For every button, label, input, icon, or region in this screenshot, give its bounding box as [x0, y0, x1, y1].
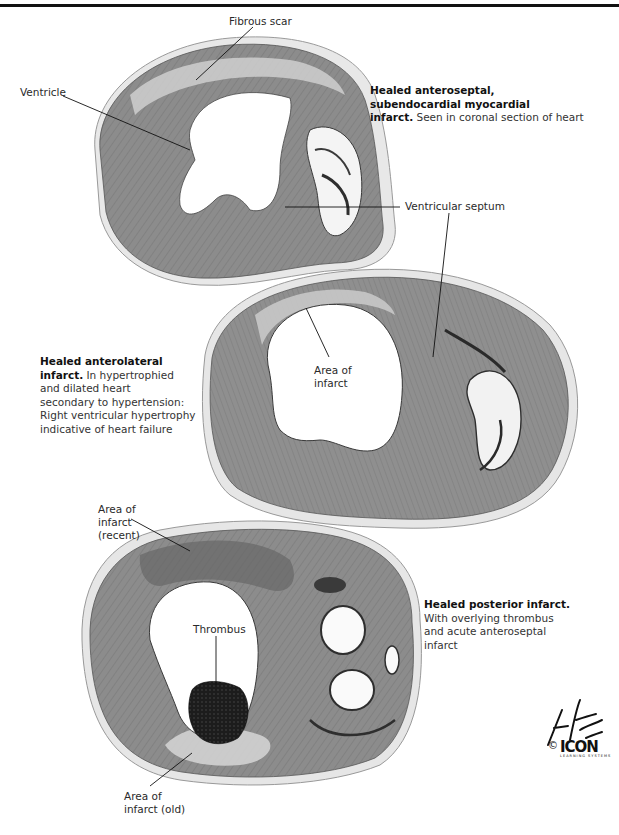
- caption-bold-line1: Healed anteroseptal,: [370, 84, 495, 96]
- top-heart-section: [95, 37, 396, 285]
- caption-rest: In hypertrophied: [83, 369, 174, 381]
- caption-bold-line2: infarct.: [40, 369, 83, 381]
- caption-line: With overlying thrombus: [424, 612, 554, 624]
- caption-rest: Seen in coronal section of heart: [413, 111, 583, 123]
- label-line: infarct: [314, 377, 348, 389]
- caption-line: and acute anteroseptal: [424, 625, 546, 637]
- label-line: infarct: [98, 516, 132, 528]
- label-line: Area of: [98, 503, 136, 515]
- label-line: (recent): [98, 529, 140, 541]
- label-area-of-infarct-old: Area of infarct (old): [124, 790, 185, 816]
- caption-anteroseptal-infarct: Healed anteroseptal, subendocardial myoc…: [370, 84, 615, 125]
- copyright-symbol: ©: [548, 740, 558, 751]
- caption-bold-line3: infarct.: [370, 111, 413, 123]
- label-ventricular-septum: Ventricular septum: [405, 200, 505, 213]
- label-line: infarct (old): [124, 803, 185, 815]
- label-area-of-infarct: Area of infarct: [314, 364, 352, 390]
- bottom-heart-section: [82, 521, 422, 785]
- caption-posterior-infarct: Healed posterior infarct. With overlying…: [424, 598, 614, 652]
- label-area-of-infarct-recent: Area of infarct (recent): [98, 503, 140, 542]
- label-line: Area of: [124, 790, 162, 802]
- middle-heart-section: [202, 269, 577, 528]
- caption-line: indicative of heart failure: [40, 423, 172, 435]
- caption-bold-line2: subendocardial myocardial: [370, 98, 530, 110]
- caption-bold-line1: Healed anterolateral: [40, 355, 163, 367]
- icon-logo-subtitle: LEARNING SYSTEMS: [560, 754, 611, 758]
- label-line: Area of: [314, 364, 352, 376]
- label-thrombus: Thrombus: [193, 623, 246, 636]
- caption-line: Right ventricular hypertrophy: [40, 409, 196, 421]
- caption-line: secondary to hypertension:: [40, 396, 184, 408]
- caption-bold-line1: Healed posterior infarct.: [424, 598, 570, 610]
- label-fibrous-scar: Fibrous scar: [229, 15, 292, 28]
- caption-line: and dilated heart: [40, 382, 131, 394]
- caption-anterolateral-infarct: Healed anterolateral infarct. In hypertr…: [40, 355, 220, 436]
- label-ventricle: Ventricle: [20, 86, 66, 99]
- caption-line: infarct: [424, 639, 458, 651]
